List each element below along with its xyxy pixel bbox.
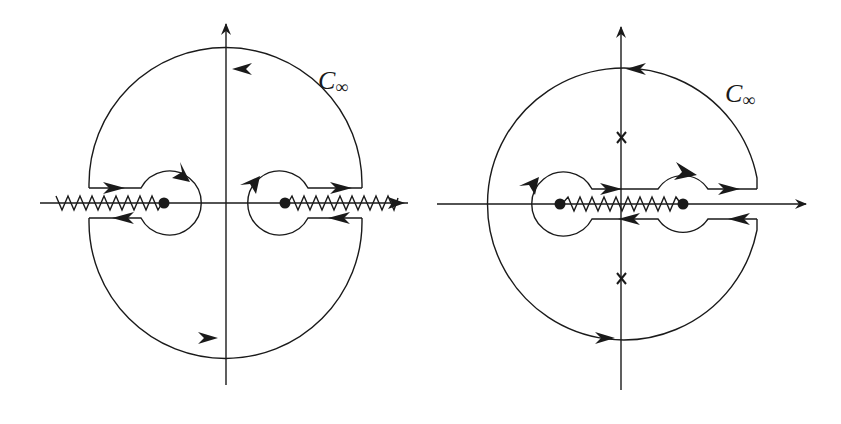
left-contour-label: C∞ — [318, 66, 348, 98]
left-panel — [40, 24, 408, 385]
left-arrow-bottom — [198, 332, 218, 344]
right-branch-point-1 — [555, 199, 566, 210]
right-arrow-left-bulb — [519, 177, 539, 195]
right-contour-label: C∞ — [725, 79, 755, 111]
left-branch-point-1 — [159, 198, 170, 209]
right-branch-point-2 — [678, 199, 689, 210]
left-arrow-top — [232, 63, 252, 75]
left-contour-subscript: ∞ — [335, 77, 348, 97]
left-branch-point-2 — [280, 198, 291, 209]
right-contour-letter: C — [725, 79, 742, 108]
right-contour-subscript: ∞ — [742, 90, 755, 110]
left-contour-letter: C — [318, 66, 335, 95]
contour-diagrams — [0, 0, 841, 424]
